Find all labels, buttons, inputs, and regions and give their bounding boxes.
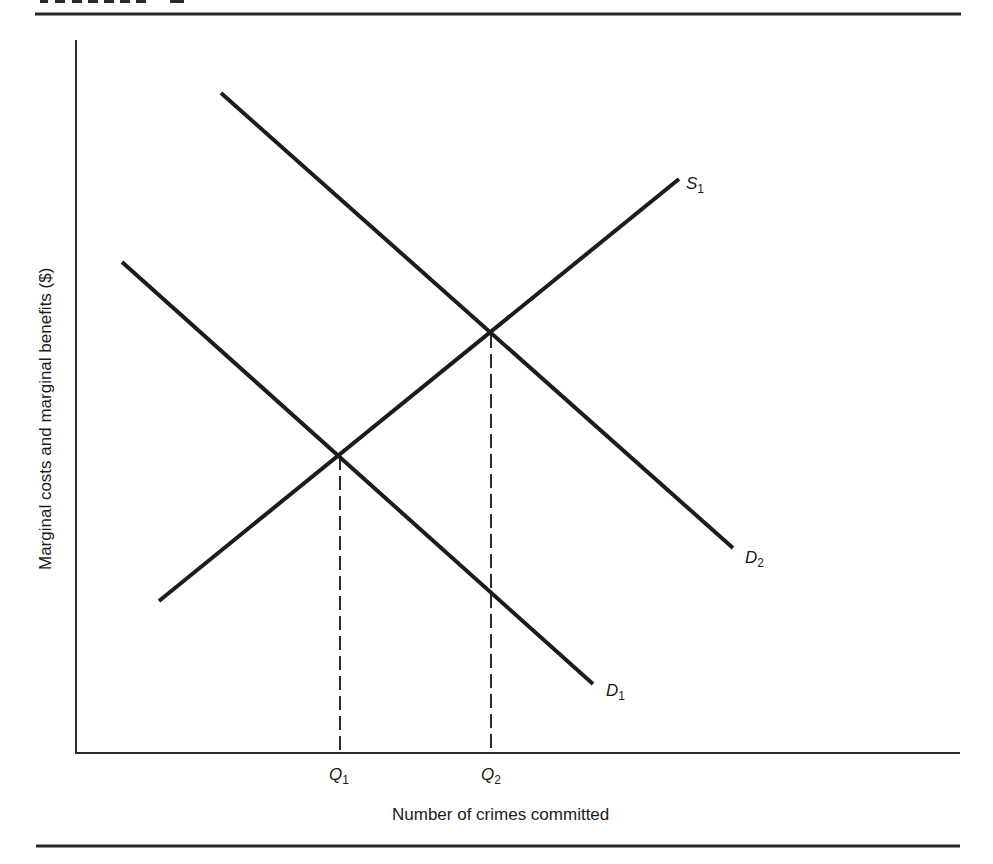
d2-demand-curve xyxy=(221,93,733,548)
s1-supply-curve xyxy=(159,179,679,601)
y-axis-title: Marginal costs and marginal benefits ($) xyxy=(36,268,55,570)
s1-label: S1 xyxy=(686,174,704,196)
d1-demand-curve xyxy=(122,262,593,684)
title-fragment xyxy=(40,0,184,3)
q2-tick-label: Q2 xyxy=(481,765,501,787)
d1-label: D1 xyxy=(606,681,625,703)
d2-label: D2 xyxy=(745,548,764,570)
q1-tick-label: Q1 xyxy=(329,765,349,787)
chart-canvas: S1 D2 D1 Q1 Q2 Number of crimes committe… xyxy=(0,0,993,864)
chart-figure: S1 D2 D1 Q1 Q2 Number of crimes committe… xyxy=(0,0,993,864)
x-axis-title: Number of crimes committed xyxy=(392,805,609,824)
